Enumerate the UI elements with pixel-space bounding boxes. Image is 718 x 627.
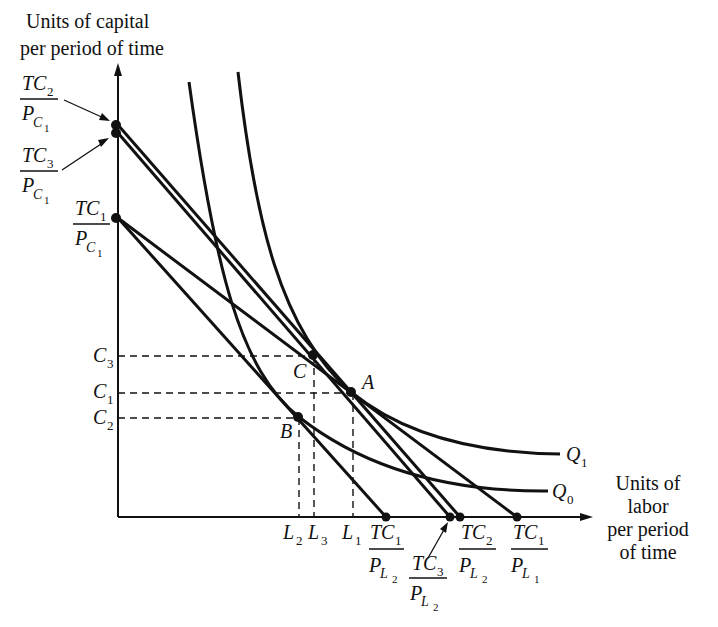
svg-text:Q: Q [566,443,581,465]
isoquant-label-q0: Q 0 [552,480,574,507]
svg-text:1: 1 [44,122,50,134]
svg-text:1: 1 [581,455,588,470]
x-intercept-tc1-pl2: TC 1 P L 2 [368,521,404,585]
point-label-c: C [293,360,307,382]
svg-text:1: 1 [534,573,540,585]
isocost-tc1-pl1 [118,218,517,517]
svg-text:1: 1 [97,247,103,259]
svg-text:Q: Q [552,480,567,502]
isoquant-q0 [189,82,548,491]
x-axis-title: Units of labor per period of time [607,472,689,563]
x-intercept-tc3-pl2: TC 3 P L 2 [409,552,447,613]
svg-text:Units of: Units of [616,472,681,494]
svg-text:2: 2 [433,601,439,613]
svg-text:per period: per period [607,518,689,541]
y-axis-title-line2: per period of time [20,37,164,60]
svg-text:3: 3 [47,156,54,171]
svg-text:3: 3 [321,533,328,548]
svg-text:L: L [420,594,429,609]
y-intercept-tc3-pc1: TC 3 P C 1 [20,144,58,206]
svg-text:2: 2 [296,533,303,548]
point-label-a: A [360,371,375,393]
y-tick-c2: C 2 [93,406,114,433]
y-intercept-tc2-pc1: TC 2 P C 1 [20,72,58,134]
svg-text:of time: of time [619,541,676,563]
svg-text:C: C [33,115,43,130]
svg-text:C: C [33,187,43,202]
svg-text:L: L [307,521,319,543]
svg-text:TC: TC [412,552,437,574]
svg-text:C: C [86,240,96,255]
isocost-lines [118,125,517,517]
svg-text:2: 2 [482,573,488,585]
svg-text:TC: TC [22,144,47,166]
pointer-arrows [62,100,448,558]
svg-text:2: 2 [107,418,114,433]
dot-tc3-pc1 [111,128,121,138]
svg-text:C: C [93,344,107,366]
svg-text:3: 3 [107,356,114,371]
svg-text:TC: TC [513,521,538,543]
svg-text:1: 1 [107,392,114,407]
svg-text:1: 1 [395,533,402,548]
svg-text:2: 2 [392,573,398,585]
x-tick-l3: L 3 [307,521,328,548]
x-tick-l1: L 1 [341,521,362,548]
svg-text:1: 1 [538,533,545,548]
svg-text:1: 1 [44,194,50,206]
dot-a [346,387,356,397]
arrow-head-icon [440,522,448,533]
svg-text:labor: labor [627,495,668,517]
svg-text:TC: TC [75,197,100,219]
x-intercept-tc1-pl1: TC 1 P L 1 [510,521,548,585]
x-intercept-tc2-pl2: TC 2 P L 2 [458,521,496,585]
svg-text:0: 0 [567,492,574,507]
svg-text:C: C [93,406,107,428]
isocost-tc1-pl2 [118,218,386,517]
point-label-b: B [280,420,292,442]
y-intercept-tc1-pc1: TC 1 P C 1 [73,197,110,259]
isocost-tc3-pl2 [118,133,450,517]
isoquant-diagram: Units of capital per period of time Unit… [0,0,718,627]
svg-text:L: L [379,566,388,581]
points [111,120,522,522]
y-tick-c1: C 1 [93,380,114,407]
x-tick-l2: L 2 [282,521,303,548]
y-axis-title-line1: Units of capital [26,10,150,33]
svg-text:2: 2 [486,533,493,548]
svg-text:L: L [469,566,478,581]
y-tick-c3: C 3 [93,344,114,371]
svg-text:TC: TC [22,72,47,94]
dot-tc3-pl2 [446,513,455,522]
svg-text:L: L [341,521,353,543]
isoquant-q1 [238,72,560,454]
dot-c [308,350,318,360]
svg-text:L: L [282,521,294,543]
dashed-guides [118,356,353,517]
dot-tc1-pc1 [111,213,121,223]
svg-text:3: 3 [437,564,444,579]
svg-text:C: C [93,380,107,402]
svg-text:2: 2 [47,84,54,99]
svg-text:1: 1 [355,533,362,548]
arrow-head-icon [99,113,110,121]
isoquant-label-q1: Q 1 [566,443,588,470]
isocost-tc2-pl2 [118,125,460,517]
svg-text:TC: TC [370,521,395,543]
x-axis-arrow-icon [580,513,593,521]
svg-text:TC: TC [461,521,486,543]
y-axis-arrow-icon [114,63,122,76]
svg-text:L: L [521,566,530,581]
svg-text:1: 1 [100,209,107,224]
dot-b [293,412,303,422]
